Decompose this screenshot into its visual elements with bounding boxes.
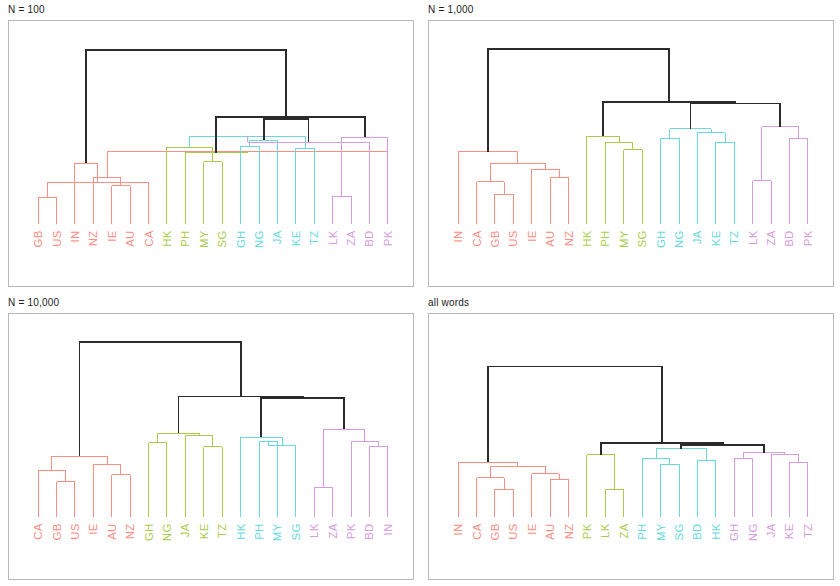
dendrogram-link: [268, 441, 296, 517]
leaf-label: CA: [471, 230, 483, 247]
dendrogram-link: [490, 163, 545, 181]
leaf-label: CA: [32, 523, 44, 540]
dendrogram-link: [75, 163, 98, 224]
dendrogram-svg: CAGBUSIEAUNZGHNGJAKETZHKPHMYSGLKZAPKBDIN: [9, 314, 413, 579]
dendrogram-link: [477, 182, 505, 225]
dendrogram-link: [734, 458, 752, 517]
dendrogram-link: [314, 487, 332, 517]
dendrogram-link: [264, 119, 309, 142]
dendrogram-link: [112, 475, 130, 518]
dendrogram-link: [38, 470, 66, 517]
leaf-label: JA: [765, 523, 777, 537]
dendrogram-link: [80, 342, 241, 456]
leaf-label: GH: [728, 523, 740, 541]
leaf-label: LK: [327, 230, 339, 245]
leaf-label: IN: [382, 523, 394, 535]
dendrogram-link: [661, 464, 679, 517]
leaf-label: MY: [618, 230, 630, 248]
dendrogram-link: [488, 49, 669, 152]
panel-n-100: N = 100 GBUSINNZIEAUCAHKPHMYSGGHNGJAKETZ…: [0, 0, 420, 293]
dendrogram-link: [93, 464, 121, 517]
leaf-label: NG: [161, 523, 173, 541]
dendrogram-link: [550, 177, 568, 224]
dendrogram-link: [605, 489, 623, 517]
leaf-label: MY: [198, 230, 210, 248]
leaf-label: GB: [489, 523, 501, 540]
leaf-label: US: [51, 230, 63, 247]
dendrogram-link: [624, 150, 642, 225]
dendrogram-link: [185, 435, 213, 517]
leaf-label: IE: [526, 230, 538, 241]
leaf-label: SG: [673, 523, 685, 540]
plot-area: INCAGBUSIEAUNZPKLKZAPHMYSGBDHKGHNGJAKETZ: [428, 313, 834, 580]
dendrogram-link: [716, 142, 734, 224]
dendrogram-figure: N = 100 GBUSINNZIEAUCAHKPHMYSGGHNGJAKETZ…: [0, 0, 840, 586]
leaf-label: US: [507, 230, 519, 247]
leaf-label: LK: [308, 523, 320, 538]
leaf-label: JA: [179, 523, 191, 537]
leaf-label: KE: [198, 523, 210, 539]
leaf-label: KE: [290, 230, 302, 246]
dendrogram-link: [670, 129, 711, 139]
leaf-label: GB: [32, 230, 44, 247]
leaf-label: NZ: [87, 230, 99, 246]
dendrogram-link: [333, 196, 351, 224]
leaf-label: NZ: [124, 523, 136, 539]
leaf-label: GH: [143, 523, 155, 541]
leaf-label: MY: [655, 523, 667, 541]
panel-n-1000: N = 1,000 INCAGBUSIEAUNZHKPHMYSGGHNGJAKE…: [420, 0, 840, 293]
leaf-label: MY: [271, 523, 283, 541]
leaf-label: IN: [69, 230, 81, 242]
leaf-label: GH: [655, 230, 667, 248]
leaf-label: PH: [599, 230, 611, 246]
leaf-label: HK: [161, 230, 173, 247]
dendrogram-link: [605, 142, 633, 224]
leaf-label: PK: [345, 523, 357, 539]
dendrogram-link: [112, 186, 130, 225]
dendrogram-svg: GBUSINNZIEAUCAHKPHMYSGGHNGJAKETZLKZABDPK: [9, 21, 413, 286]
leaf-label: PK: [802, 230, 814, 246]
dendrogram-link: [661, 138, 679, 224]
dendrogram-link: [477, 478, 505, 518]
dendrogram-link: [789, 462, 807, 517]
dendrogram-link: [241, 146, 259, 224]
leaf-label: US: [69, 523, 81, 540]
dendrogram-link: [490, 466, 545, 478]
leaf-label: ZA: [345, 230, 357, 245]
panel-all-words: all words INCAGBUSIEAUNZPKLKZAPHMYSGBDHK…: [420, 293, 840, 586]
leaf-label: CA: [143, 230, 155, 247]
dendrogram-link: [771, 455, 799, 518]
dendrogram-link: [149, 443, 167, 518]
leaf-label: PH: [179, 230, 191, 246]
dendrogram-link: [52, 456, 107, 470]
leaf-label: BD: [363, 523, 375, 539]
leaf-label: AU: [544, 230, 556, 246]
leaf-label: GH: [235, 230, 247, 248]
dendrogram-link: [107, 152, 388, 225]
dendrogram-link: [250, 140, 278, 224]
leaf-label: NG: [747, 523, 759, 541]
dendrogram-link: [753, 181, 771, 225]
dendrogram-link: [47, 183, 148, 225]
leaf-label: GB: [51, 523, 63, 540]
leaf-label: SG: [636, 230, 648, 247]
dendrogram-link: [743, 453, 784, 459]
dendrogram-link: [495, 194, 513, 224]
dendrogram-link: [93, 177, 121, 224]
leaf-label: ZA: [618, 523, 630, 538]
panel-title: N = 100: [8, 4, 45, 15]
dendrogram-link: [57, 482, 75, 518]
leaf-label: IE: [87, 523, 99, 534]
plot-area: GBUSINNZIEAUCAHKPHMYSGGHNGJAKETZLKZABDPK: [8, 20, 414, 287]
leaf-label: BD: [691, 523, 703, 539]
dendrogram-link: [697, 460, 715, 517]
leaf-label: JA: [691, 230, 703, 244]
dendrogram-link: [691, 104, 781, 129]
panel-title: N = 1,000: [428, 4, 473, 15]
leaf-label: GB: [489, 230, 501, 247]
leaf-label: NG: [253, 230, 265, 248]
dendrogram-link: [532, 474, 560, 518]
dendrogram-link: [178, 397, 302, 434]
dendrogram-link: [369, 447, 387, 518]
dendrogram-link: [495, 489, 513, 517]
